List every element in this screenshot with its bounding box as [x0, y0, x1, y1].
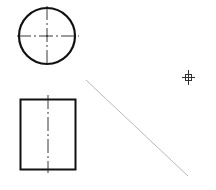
- drawing-canvas[interactable]: [0, 0, 216, 190]
- front-view: [21, 95, 76, 173]
- top-view-center-point: [46, 35, 48, 37]
- crosshair-cursor-icon: [182, 70, 195, 85]
- top-view: [17, 6, 79, 66]
- construction-line: [86, 80, 188, 176]
